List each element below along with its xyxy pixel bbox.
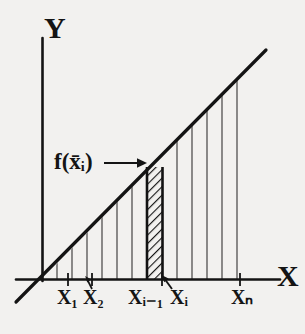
y-axis-label: Y	[44, 13, 66, 43]
function-value-label: f(x̄ᵢ)	[54, 150, 93, 173]
tick-label-x2: X₂	[83, 287, 103, 307]
tick-label-xi: Xᵢ	[170, 287, 188, 307]
riemann-sum-figure: Y X f(x̄ᵢ) X₁ X₂ Xᵢ₋₁ Xᵢ Xₙ	[0, 0, 305, 334]
tick-label-xn: Xₙ	[231, 287, 253, 307]
tick-label-xi-minus-1: Xᵢ₋₁	[128, 287, 163, 307]
figure-canvas	[0, 0, 305, 334]
tick-label-x1: X₁	[57, 287, 77, 307]
x-axis-label: X	[277, 261, 299, 291]
shaded-rectangle	[147, 167, 163, 279]
